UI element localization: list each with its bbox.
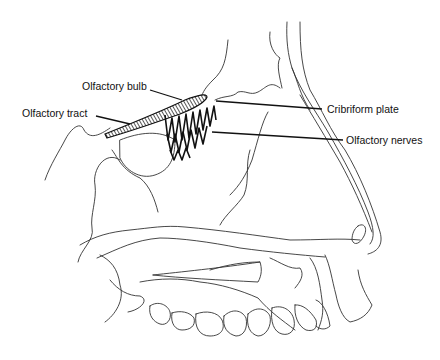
skull-outline xyxy=(45,22,381,336)
leader-olfactory-tract xyxy=(96,116,130,124)
label-cribriform-plate: Cribriform plate xyxy=(327,103,399,115)
leader-olfactory-bulb xyxy=(150,90,182,100)
diagram-canvas: Olfactory bulb Olfactory tract Cribrifor… xyxy=(0,0,440,360)
teeth-row xyxy=(150,300,330,336)
label-olfactory-nerves: Olfactory nerves xyxy=(346,134,422,146)
label-olfactory-tract: Olfactory tract xyxy=(22,107,87,119)
label-olfactory-bulb: Olfactory bulb xyxy=(82,80,147,92)
